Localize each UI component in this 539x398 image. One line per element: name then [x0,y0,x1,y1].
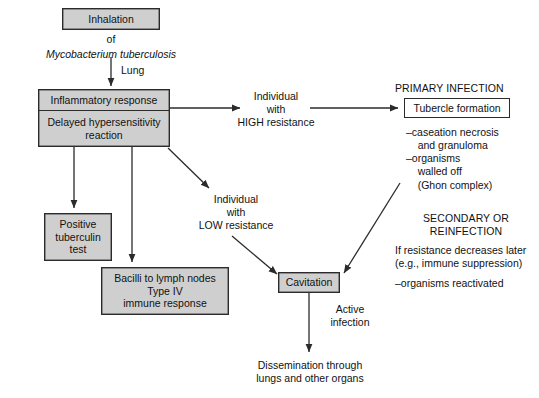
label-active-infection: Active infection [314,303,386,329]
text-secondary-condition: If resistance decreases later (e.g., imm… [395,244,539,270]
label-high-resistance: Individual with HIGH resistance [215,90,337,129]
arrow-low-resistance-to-cavitation [232,236,277,274]
node-tubercle-formation[interactable]: Tubercle formation [404,98,510,118]
heading-primary-infection: PRIMARY INFECTION [395,82,535,95]
node-cavitation[interactable]: Cavitation [278,272,340,293]
heading-secondary-reinfection: SECONDARY OR REINFECTION [402,212,530,238]
arrow-primary-to-cavitation [344,183,400,273]
label-lung: Lung [121,64,171,77]
node-cavitation-label: Cavitation [286,276,333,288]
node-bacilli-lymph-nodes[interactable]: Bacilli to lymph nodes Type IV immune re… [101,267,229,315]
node-inflammatory-response[interactable]: Inflammatory response Delayed hypersensi… [38,89,170,147]
label-of: of [86,33,136,46]
text-primary-infection-details: –caseation necrosis and granuloma –organ… [406,126,539,192]
label-dissemination: Dissemination through lungs and other or… [229,359,391,385]
node-positive-tuberculin-test[interactable]: Positive tuberculin test [44,213,112,261]
text-secondary-detail: –organisms reactivated [395,277,539,290]
arrow-inflammatory-to-low-resistance [168,148,209,188]
node-inflammatory-response-title: Inflammatory response [39,90,169,111]
label-low-resistance: Individual with LOW resistance [180,193,292,232]
node-tubercle-formation-label: Tubercle formation [413,102,500,114]
tuberculosis-pathogenesis-diagram: Inhalation Inflammatory response Delayed… [0,0,539,398]
node-positive-tuberculin-test-label: Positive tuberculin test [55,218,101,255]
node-inhalation[interactable]: Inhalation [62,8,160,30]
node-bacilli-lymph-nodes-label: Bacilli to lymph nodes Type IV immune re… [114,272,216,309]
label-organism-name: Mycobacterium tuberculosis [21,48,201,61]
node-delayed-hypersensitivity-reaction: Delayed hypersensitivity reaction [39,111,169,146]
node-inhalation-label: Inhalation [88,13,134,25]
